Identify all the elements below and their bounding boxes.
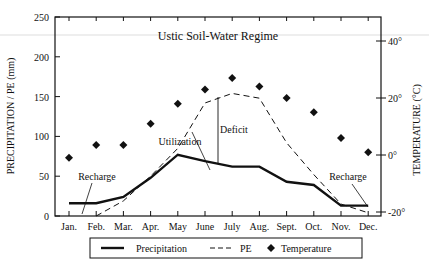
x-tick-label: Jan. bbox=[61, 221, 77, 232]
y-tick-label: 250 bbox=[34, 12, 49, 23]
x-tick-label: Apr. bbox=[142, 221, 160, 232]
y-right-tick-label: 40° bbox=[388, 36, 402, 47]
annotation-pointer bbox=[352, 184, 368, 207]
y-tick-label: 50 bbox=[39, 171, 49, 182]
temperature-point bbox=[310, 108, 318, 116]
temperature-point bbox=[228, 74, 236, 82]
x-tick-label: Oct. bbox=[305, 221, 322, 232]
y-tick-label: 200 bbox=[34, 52, 49, 63]
temperature-point bbox=[283, 94, 291, 102]
legend-temperature-label: Temperature bbox=[281, 243, 332, 254]
chart-title: Ustic Soil-Water Regime bbox=[158, 29, 278, 43]
temperature-point bbox=[174, 100, 182, 108]
legend-precipitation-label: Precipitation bbox=[136, 243, 187, 254]
annotation-pointer bbox=[82, 183, 92, 214]
x-tick-label: June bbox=[196, 221, 215, 232]
x-tick-label: Aug. bbox=[250, 221, 270, 232]
temperature-point bbox=[92, 141, 100, 149]
temperature-point bbox=[147, 120, 155, 128]
x-tick-label: July bbox=[224, 221, 241, 232]
annotation-recharge-late: Recharge bbox=[329, 171, 367, 182]
x-tick-label: May bbox=[169, 221, 187, 232]
soil-water-chart: 050100150200250 -20°0°20°40° Jan.Feb.Mar… bbox=[0, 0, 429, 280]
x-tick-label: Dec. bbox=[359, 221, 378, 232]
pe-line bbox=[96, 93, 368, 216]
y-tick-label: 150 bbox=[34, 92, 49, 103]
temperature-point bbox=[65, 154, 73, 162]
x-tick-label: Sept. bbox=[276, 221, 296, 232]
x-tick-label: Mar. bbox=[114, 221, 133, 232]
temperature-point bbox=[119, 141, 127, 149]
legend-pe-label: PE bbox=[240, 243, 252, 254]
annotation-deficit: Deficit bbox=[220, 124, 248, 135]
y-axis-right-label: TEMPERATURE (°C) bbox=[411, 84, 423, 176]
temperature-point bbox=[201, 85, 209, 93]
y-axis-label: PRECIPITATION / PE (mm) bbox=[5, 58, 17, 175]
x-tick-label: Nov. bbox=[331, 221, 350, 232]
temperature-point bbox=[337, 134, 345, 142]
y-right-tick-label: 20° bbox=[388, 93, 402, 104]
left-axis: 050100150200250 bbox=[34, 12, 60, 222]
temperature-point bbox=[255, 83, 263, 91]
y-tick-label: 0 bbox=[44, 211, 49, 222]
annotation-recharge-early: Recharge bbox=[78, 171, 116, 182]
temperature-point bbox=[364, 148, 372, 156]
y-tick-label: 100 bbox=[34, 131, 49, 142]
x-tick-label: Feb. bbox=[87, 221, 105, 232]
series-layer bbox=[65, 74, 372, 216]
y-right-tick-label: 0° bbox=[388, 150, 397, 161]
y-right-tick-label: -20° bbox=[388, 207, 405, 218]
legend: Precipitation PE Temperature bbox=[90, 238, 362, 258]
